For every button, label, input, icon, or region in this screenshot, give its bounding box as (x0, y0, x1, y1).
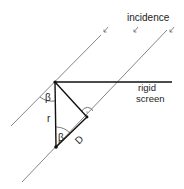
incidence-arrow-icon (134, 27, 138, 32)
vertex-foot (86, 116, 89, 119)
vertex-top (53, 80, 56, 83)
side-r-label: r (47, 113, 51, 124)
side-D-label: D (73, 133, 86, 146)
screen-label: screen (136, 93, 165, 104)
incidence-arrow-icon (170, 27, 174, 32)
rigid-label: rigid (138, 82, 156, 93)
incidence-label: incidence (127, 12, 170, 23)
angle-beta-top-label: β (45, 92, 51, 103)
incident-ray-right (22, 30, 167, 182)
diagram-canvas: incidence rigid screen β r β D (0, 0, 184, 189)
perpendicular-line (55, 82, 87, 117)
incidence-arrow-icon (104, 27, 108, 32)
vertex-bottom (54, 145, 58, 149)
side-r (55, 82, 56, 147)
angle-beta-bottom-label: β (58, 132, 64, 143)
